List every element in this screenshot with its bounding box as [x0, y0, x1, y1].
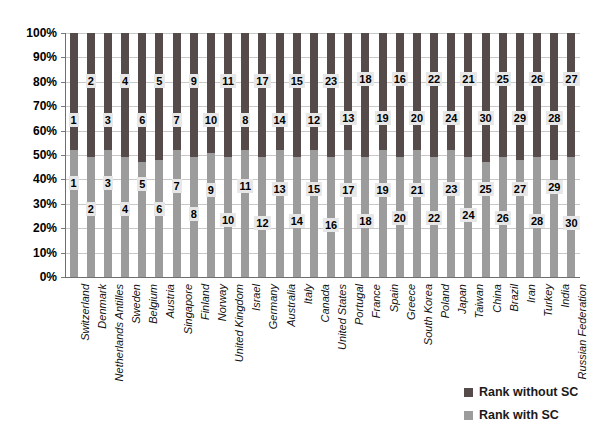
x-axis-label: Germany — [267, 284, 279, 329]
rank-label-without-sc: 2 — [86, 74, 96, 88]
rank-label-without-sc: 16 — [392, 72, 408, 86]
x-axis-label: Finland — [199, 284, 211, 320]
bar-segment-rank-without-sc — [413, 33, 421, 150]
y-axis-label: 10% — [9, 246, 57, 260]
rank-label-without-sc: 11 — [220, 74, 236, 88]
bar-segment-rank-without-sc — [138, 33, 146, 162]
rank-label-without-sc: 8 — [240, 113, 250, 127]
y-axis-label: 90% — [9, 50, 57, 64]
bar-segment-rank-without-sc — [224, 33, 232, 157]
x-axis-label: Canada — [319, 284, 331, 323]
x-axis-line — [65, 277, 580, 278]
x-axis-label: Singapore — [182, 284, 194, 334]
bar-segment-rank-without-sc — [464, 33, 472, 157]
rank-label-without-sc: 12 — [306, 113, 322, 127]
legend-label-without-sc: Rank without SC — [479, 385, 578, 399]
rank-label-without-sc: 15 — [289, 74, 305, 88]
legend-label-with-sc: Rank with SC — [479, 408, 559, 422]
rank-label-with-sc: 30 — [563, 216, 579, 230]
bar-segment-rank-without-sc — [70, 33, 78, 150]
y-axis-label: 0% — [9, 270, 57, 284]
x-axis-label: Iran — [525, 284, 537, 303]
bar-segment-rank-without-sc — [396, 33, 404, 157]
rank-label-without-sc: 19 — [374, 111, 390, 125]
x-axis-label: United Kingdom — [233, 284, 245, 362]
rank-label-with-sc: 3 — [103, 176, 113, 190]
bar-segment-rank-without-sc — [567, 33, 575, 157]
rank-label-without-sc: 20 — [409, 111, 425, 125]
legend-swatch-with-sc — [464, 411, 473, 420]
y-axis-label: 100% — [9, 26, 57, 40]
rank-label-with-sc: 16 — [323, 218, 339, 232]
rank-label-with-sc: 14 — [289, 214, 305, 228]
rank-label-with-sc: 4 — [120, 202, 130, 216]
rank-label-without-sc: 5 — [154, 74, 164, 88]
bar-segment-rank-without-sc — [190, 33, 198, 157]
x-axis-label: Japan — [456, 284, 468, 314]
bar-segment-rank-with-sc — [413, 150, 421, 277]
x-axis-label: Sweden — [130, 284, 142, 324]
rank-label-with-sc: 25 — [477, 182, 493, 196]
rank-label-with-sc: 1 — [69, 176, 79, 190]
rank-label-without-sc: 23 — [323, 74, 339, 88]
rank-label-without-sc: 22 — [426, 72, 442, 86]
bar-segment-rank-with-sc — [550, 160, 558, 277]
x-axis-label: Netherlands Antilles — [113, 284, 125, 381]
rank-label-without-sc: 18 — [357, 72, 373, 86]
bar-segment-rank-with-sc — [241, 150, 249, 277]
rank-label-without-sc: 4 — [120, 74, 130, 88]
rank-label-without-sc: 3 — [103, 113, 113, 127]
rank-label-with-sc: 8 — [189, 207, 199, 221]
rank-label-without-sc: 21 — [460, 72, 476, 86]
rank-label-without-sc: 24 — [443, 111, 459, 125]
rank-label-with-sc: 12 — [254, 216, 270, 230]
rank-label-without-sc: 26 — [529, 72, 545, 86]
bar-segment-rank-without-sc — [276, 33, 284, 150]
rank-label-with-sc: 28 — [529, 214, 545, 228]
bar-segment-rank-with-sc — [121, 157, 129, 277]
bar-segment-rank-with-sc — [379, 150, 387, 277]
bar-segment-rank-with-sc — [207, 153, 215, 277]
x-axis-label: Australia — [285, 284, 297, 327]
x-axis-label: Italy — [302, 284, 314, 304]
bar-segment-rank-with-sc — [70, 150, 78, 277]
x-axis-label: Taiwan — [473, 284, 485, 318]
rank-label-with-sc: 27 — [512, 182, 528, 196]
rank-label-without-sc: 1 — [69, 113, 79, 127]
x-axis-label: South Korea — [422, 284, 434, 345]
x-axis-label: Spain — [388, 284, 400, 312]
plot-area: 0%10%20%30%40%50%60%70%80%90%100%1122334… — [0, 0, 602, 441]
bar-segment-rank-with-sc — [276, 150, 284, 277]
bar-segment-rank-without-sc — [516, 33, 524, 160]
bar-segment-rank-with-sc — [482, 162, 490, 277]
bar-segment-rank-without-sc — [327, 33, 335, 157]
bar-segment-rank-without-sc — [310, 33, 318, 150]
y-axis-label: 40% — [9, 172, 57, 186]
rank-label-with-sc: 29 — [546, 180, 562, 194]
rank-label-with-sc: 15 — [306, 182, 322, 196]
x-axis-label: Denmark — [96, 284, 108, 329]
rank-label-without-sc: 6 — [137, 113, 147, 127]
x-axis-label: India — [559, 284, 571, 308]
rank-label-with-sc: 21 — [409, 183, 425, 197]
y-axis-label: 50% — [9, 148, 57, 162]
bar-segment-rank-without-sc — [361, 33, 369, 157]
rank-label-with-sc: 26 — [495, 211, 511, 225]
legend-entry-with-sc: Rank with SC — [464, 408, 578, 422]
rank-label-without-sc: 27 — [563, 72, 579, 86]
x-axis-label: Greece — [405, 284, 417, 320]
rank-label-with-sc: 13 — [271, 182, 287, 196]
bar-segment-rank-with-sc — [344, 150, 352, 277]
x-axis-label: Austria — [164, 284, 176, 318]
rank-label-with-sc: 2 — [86, 202, 96, 216]
rank-label-without-sc: 28 — [546, 111, 562, 125]
rank-label-with-sc: 9 — [206, 183, 216, 197]
rank-label-without-sc: 17 — [254, 74, 270, 88]
bar-segment-rank-without-sc — [430, 33, 438, 157]
bar-segment-rank-with-sc — [155, 160, 163, 277]
legend: Rank without SC Rank with SC — [464, 385, 578, 422]
x-axis-label: Portugal — [353, 284, 365, 325]
rank-label-without-sc: 9 — [189, 74, 199, 88]
bar-segment-rank-without-sc — [344, 33, 352, 150]
x-axis-label: Norway — [216, 284, 228, 321]
